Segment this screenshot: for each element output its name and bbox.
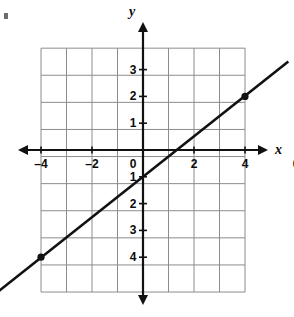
x-tick-label: –6 [0, 158, 2, 170]
x-tick-label: –4 [29, 158, 53, 170]
y-tick-label: 3 [121, 224, 145, 236]
x-tick-label: –2 [80, 158, 104, 170]
x-tick-label: 2 [182, 158, 206, 170]
coordinate-plane-figure: x y 0 –6–4–2246 3211234 [0, 0, 294, 317]
y-tick-label: 1 [121, 117, 145, 129]
x-axis-label: x [275, 143, 282, 157]
y-tick-label: 2 [121, 90, 145, 102]
y-axis-arrow-up [138, 22, 148, 32]
x-tick-label: 4 [233, 158, 257, 170]
y-axis-arrow-down [138, 295, 148, 305]
origin-label: 0 [121, 158, 145, 170]
y-tick-label: 2 [121, 198, 145, 210]
y-tick-label: 3 [121, 64, 145, 76]
y-axis-label: y [129, 5, 135, 19]
y-tick-label: 1 [121, 171, 145, 183]
x-axis-arrow-right [258, 145, 268, 155]
data-point-marker [37, 254, 44, 261]
x-tick-label: 6 [284, 158, 294, 170]
y-tick-label: 4 [121, 251, 145, 263]
x-axis-arrow-left [18, 145, 28, 155]
data-point-marker [241, 93, 248, 100]
